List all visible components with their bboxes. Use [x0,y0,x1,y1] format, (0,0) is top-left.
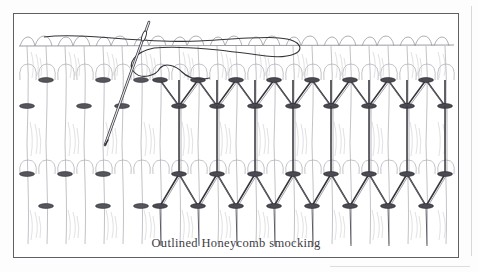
smocking-diagram [14,14,458,257]
page-edge-bottom-rule [330,266,470,267]
pleat-tops [20,36,449,46]
fabric-top-edge [19,45,454,46]
honeycomb-upper-row [153,78,453,109]
honeycomb-upper-zigzag [160,80,445,106]
figure-page: Outlined Honeycomb smocking [0,0,479,272]
page-edge-right-rule [471,6,472,256]
pleat-folds [27,46,447,244]
figure-caption: Outlined Honeycomb smocking [14,236,458,251]
figure-frame: Outlined Honeycomb smocking [13,13,459,258]
